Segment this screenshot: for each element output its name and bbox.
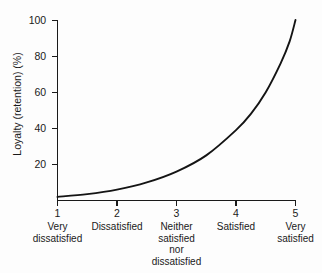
x-category-line: satisfied — [258, 233, 322, 245]
y-tick-label-60: 60 — [20, 87, 46, 98]
x-category-line: dissatisfied — [139, 256, 215, 268]
x-category-line: satisfied — [139, 233, 215, 245]
x-tick-label-5: 5 — [276, 208, 316, 219]
loyalty-curve — [58, 20, 296, 197]
y-tick-label-80: 80 — [20, 51, 46, 62]
x-tick-label-3: 3 — [157, 208, 197, 219]
x-tick-label-1: 1 — [38, 208, 78, 219]
x-tick-label-2: 2 — [97, 208, 137, 219]
x-category-label-very-satisfied: Very satisfied — [258, 221, 322, 244]
y-tick-label-20: 20 — [20, 159, 46, 170]
x-category-line: dissatisfied — [20, 233, 96, 245]
y-tick-label-100: 100 — [20, 15, 46, 26]
y-tick-label-40: 40 — [20, 123, 46, 134]
y-axis-ticks — [52, 21, 57, 165]
x-category-line: nor — [139, 244, 215, 256]
loyalty-satisfaction-chart: Loyalty (retention) (%) 100 80 60 40 20 … — [0, 0, 322, 273]
x-tick-label-4: 4 — [216, 208, 256, 219]
x-category-line: Very — [258, 221, 322, 233]
